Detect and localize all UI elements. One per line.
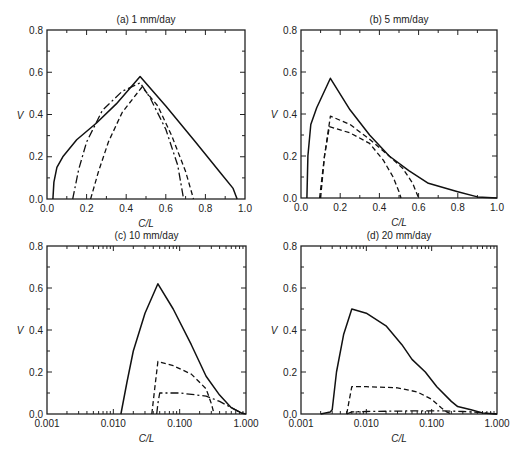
series-solid <box>53 77 237 200</box>
y-tick-label: 0.6 <box>29 67 43 78</box>
panel-a: (a) 1 mm/day0.00.20.40.60.80.00.20.40.60… <box>17 14 253 229</box>
y-axis-label: V <box>271 109 279 120</box>
series-dash-dot <box>73 83 184 199</box>
y-tick-label: 0.6 <box>283 283 297 294</box>
plot-frame <box>47 246 246 414</box>
x-tick-label: 0.8 <box>198 203 212 214</box>
panel-c: (c) 10 mm/day0.00.20.40.60.80.0010.0100.… <box>17 230 259 444</box>
y-tick-label: 0.8 <box>283 25 297 36</box>
x-tick-label: 0.6 <box>412 202 426 213</box>
y-tick-label: 0.4 <box>29 325 43 336</box>
y-tick-label: 0.2 <box>29 151 43 162</box>
panel-title: (a) 1 mm/day <box>117 14 176 25</box>
x-tick-label: 1.000 <box>484 418 509 429</box>
panel-title: (c) 10 mm/day <box>115 230 179 241</box>
series-dashed-upper <box>321 116 419 198</box>
y-tick-label: 0.4 <box>29 109 43 120</box>
x-tick-label: 0.2 <box>333 202 347 213</box>
series-dash-dot <box>157 393 246 414</box>
plot-frame <box>47 30 245 199</box>
plot-frame <box>301 246 497 414</box>
y-tick-label: 0.4 <box>283 325 297 336</box>
y-tick-label: 0.2 <box>283 367 297 378</box>
series-dashed <box>91 87 194 199</box>
x-tick-label: 0.001 <box>34 418 59 429</box>
series-solid <box>307 78 497 198</box>
x-tick-label: 0.010 <box>101 418 126 429</box>
y-axis-label: V <box>271 325 279 336</box>
y-tick-label: 0.8 <box>283 241 297 252</box>
x-tick-label: 0.4 <box>372 202 386 213</box>
x-axis-label: C/L <box>391 217 407 228</box>
y-axis-label: V <box>17 325 25 336</box>
y-tick-label: 0.6 <box>29 283 43 294</box>
panel-title: (b) 5 mm/day <box>370 14 429 25</box>
x-axis-label: C/L <box>391 433 407 444</box>
plot-frame <box>301 30 497 198</box>
x-tick-label: 1.000 <box>233 418 258 429</box>
y-axis-label: V <box>17 110 25 121</box>
series-dashed <box>347 387 452 414</box>
panel-title: (d) 20 mm/day <box>367 230 431 241</box>
x-tick-label: 1.0 <box>490 202 504 213</box>
x-tick-label: 0.4 <box>119 203 133 214</box>
x-tick-label: 0.010 <box>354 418 379 429</box>
y-tick-label: 0.8 <box>29 241 43 252</box>
y-tick-label: 0.6 <box>283 67 297 78</box>
x-tick-label: 0.100 <box>419 418 444 429</box>
panel-b: (b) 5 mm/day0.00.20.40.60.80.00.20.40.60… <box>271 14 505 228</box>
x-tick-label: 1.0 <box>238 203 252 214</box>
x-tick-label: 0.100 <box>167 418 192 429</box>
x-tick-label: 0.8 <box>451 202 465 213</box>
x-tick-label: 0.2 <box>80 203 94 214</box>
series-solid <box>121 284 246 414</box>
y-tick-label: 0.8 <box>29 25 43 36</box>
series-solid <box>321 309 497 414</box>
x-axis-label: C/L <box>138 218 154 229</box>
x-axis-label: C/L <box>139 433 155 444</box>
y-tick-label: 0.4 <box>283 109 297 120</box>
y-tick-label: 0.2 <box>29 367 43 378</box>
x-tick-label: 0.6 <box>159 203 173 214</box>
series-dashed <box>152 362 214 415</box>
series-dashed-lower <box>320 127 401 198</box>
x-tick-label: 0.001 <box>288 418 313 429</box>
figure: (a) 1 mm/day0.00.20.40.60.80.00.20.40.60… <box>0 0 521 453</box>
panel-d: (d) 20 mm/day0.00.20.40.60.80.0010.0100.… <box>271 230 510 444</box>
x-tick-label: 0.0 <box>294 202 308 213</box>
y-tick-label: 0.2 <box>283 151 297 162</box>
x-tick-label: 0.0 <box>40 203 54 214</box>
